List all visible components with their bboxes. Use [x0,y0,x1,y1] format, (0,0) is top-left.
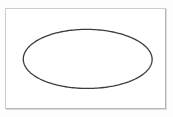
ellipse-group [23,29,152,88]
figure-canvas [0,0,173,117]
ellipse-drawing [0,0,173,117]
ellipse-outline [23,29,152,88]
